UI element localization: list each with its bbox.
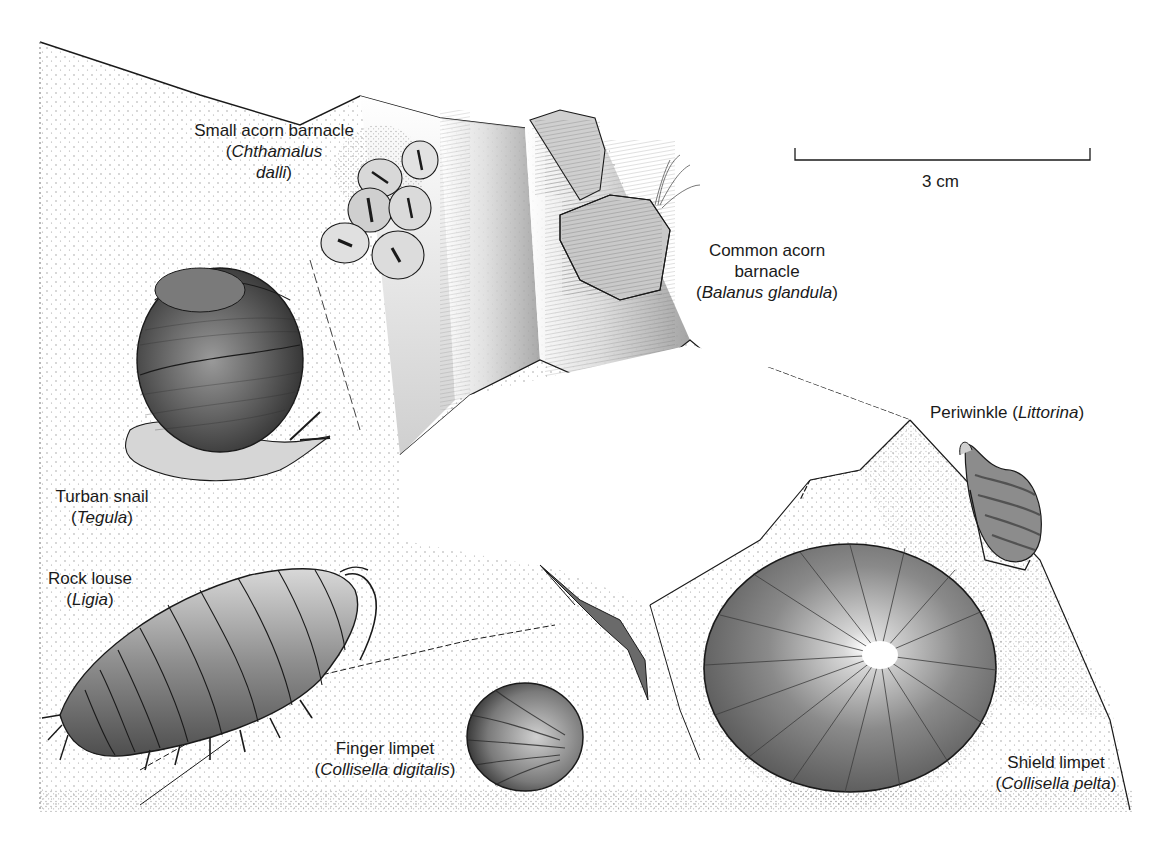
- scientific-name: Tegula: [77, 508, 127, 527]
- label-common-acorn-barnacle: Common acorn barnacle (Balanus glandula): [682, 240, 852, 303]
- common-name: Common acorn: [682, 240, 852, 261]
- finger-limpet-drawing: [467, 683, 583, 791]
- label-rock-louse: Rock louse (Ligia): [40, 568, 140, 610]
- scientific-name: Chthamalus: [231, 142, 322, 161]
- scale-bar-label: 3 cm: [922, 172, 959, 192]
- paren: ): [1111, 774, 1117, 793]
- scientific-name: Balanus glandula: [702, 283, 832, 302]
- paren: ): [832, 283, 838, 302]
- common-name: Finger limpet: [300, 738, 470, 759]
- shield-limpet-drawing: [700, 544, 1000, 805]
- label-finger-limpet: Finger limpet (Collisella digitalis): [300, 738, 470, 780]
- label-turban-snail: Turban snail (Tegula): [46, 486, 158, 528]
- common-name: Periwinkle: [930, 403, 1007, 422]
- label-periwinkle: Periwinkle (Littorina): [930, 402, 1084, 423]
- label-shield-limpet: Shield limpet (Collisella pelta): [982, 752, 1130, 794]
- label-small-acorn-barnacle: Small acorn barnacle (Chthamalus dalli): [176, 120, 372, 183]
- scientific-name-2: dalli: [256, 163, 286, 182]
- paren: ): [127, 508, 133, 527]
- paren: ): [108, 590, 114, 609]
- scientific-name: Littorina: [1018, 403, 1078, 422]
- common-name: Shield limpet: [982, 752, 1130, 773]
- scientific-name: Collisella pelta: [1001, 774, 1111, 793]
- common-name-2: barnacle: [682, 261, 852, 282]
- common-name: Turban snail: [46, 486, 158, 507]
- paren: ): [1078, 403, 1084, 422]
- scale-bar-text: 3 cm: [922, 172, 959, 191]
- scientific-name: Ligia: [72, 590, 108, 609]
- paren: ): [450, 760, 456, 779]
- scientific-name: Collisella digitalis: [320, 760, 449, 779]
- scale-bar: [795, 148, 1090, 160]
- common-name: Rock louse: [40, 568, 140, 589]
- common-name: Small acorn barnacle: [176, 120, 372, 141]
- paren: ): [286, 163, 292, 182]
